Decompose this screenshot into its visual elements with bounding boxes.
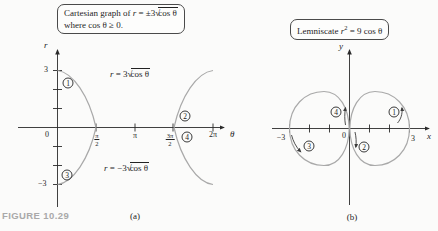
panel-b-x-axis-label: x: [427, 132, 431, 141]
panel-a-origin-label: 0: [45, 131, 49, 139]
panel-a-tick-label-3pi-half: 3π 2: [166, 132, 175, 147]
panel-a-negative-equation: r = −3√cos θ: [104, 164, 149, 173]
eq-pos-mid: = 3: [114, 69, 128, 79]
panel-b-y-axis-label: y: [339, 42, 343, 51]
branch-4-curve: [174, 128, 213, 185]
panel-b-branch-marker-4: 4: [331, 107, 342, 118]
3pi-half-denominator: 2: [168, 140, 171, 147]
figure-number-label: FIGURE 10.29: [2, 210, 69, 221]
panel-b-tick-label-3: 3: [411, 135, 415, 143]
panel-a-tick-label-neg3: −3: [38, 180, 47, 188]
panel-a-theta-axis-label: θ: [230, 130, 234, 139]
panel-a-branch-marker-2: 2: [180, 111, 191, 122]
panel-b-title-pre: Lemniscate: [297, 26, 341, 36]
pi-half-denominator: 2: [95, 140, 98, 147]
pi-half-numerator: π: [94, 132, 99, 140]
panel-a-title-mid: = ±3: [136, 8, 155, 18]
panel-b-branch-marker-2: 2: [359, 142, 370, 153]
panel-a-caption: (a): [130, 211, 140, 221]
panel-a-title-line1: Cartesian graph of r = ±3√cos θ: [64, 7, 178, 19]
panel-b-caption: (b): [347, 212, 358, 222]
panel-a-tick-label-3: 3: [44, 66, 48, 74]
panel-b-tick-label-neg3: −3: [277, 134, 286, 142]
panel-a-tick-label-pi: π: [133, 132, 137, 140]
direction-arrow-3: [292, 135, 301, 152]
panel-a-positive-equation: r = 3√cos θ: [110, 70, 150, 79]
panel-b-title-post: = 9 cos θ: [348, 26, 383, 36]
panel-a-branch-marker-4: 4: [182, 132, 193, 143]
panel-b-branch-marker-1: 1: [389, 107, 400, 118]
radicand: cos θ: [131, 68, 151, 79]
panel-a-title-box: Cartesian graph of r = ±3√cos θ where co…: [57, 4, 185, 34]
eq-neg-mid: = −3: [108, 163, 127, 173]
figure-10-29: Cartesian graph of r = ±3√cos θ where co…: [0, 0, 438, 231]
panel-a-tick-label-pi-half: π 2: [94, 132, 99, 147]
direction-arrow-2: [355, 132, 356, 147]
panel-a-branch-marker-1: 1: [63, 78, 74, 89]
direction-arrow-4: [345, 108, 346, 125]
panel-b-axes: [272, 50, 429, 205]
panel-a-branch-marker-3: 3: [62, 170, 73, 181]
panel-a-tick-label-2pi: 2π: [209, 131, 217, 139]
panel-b-title-line: Lemniscate r2 = 9 cos θ: [297, 22, 382, 37]
panel-a-title-line2: where cos θ ≥ 0.: [64, 19, 178, 31]
panel-b-title-box: Lemniscate r2 = 9 cos θ: [290, 19, 389, 40]
panel-b-origin-label: 0: [342, 132, 346, 140]
panel-a-r-axis-label: r: [44, 41, 48, 50]
panel-a-title-pre: Cartesian graph of: [64, 8, 133, 18]
radicand: cos θ: [158, 7, 178, 18]
radicand: cos θ: [130, 162, 150, 173]
panel-b-branch-marker-3: 3: [304, 141, 315, 152]
3pi-half-numerator: 3π: [166, 132, 175, 140]
